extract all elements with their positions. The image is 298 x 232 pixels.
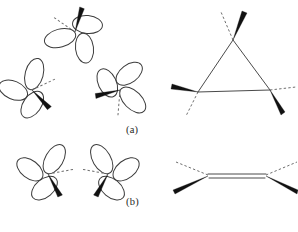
orbital-lobe: [86, 141, 118, 178]
orbital-lobe: [42, 25, 78, 51]
orbital-dash-bond: [53, 13, 75, 37]
orbital-dash-bond: [32, 74, 56, 96]
caption-row-a: (a): [126, 124, 138, 136]
figure-root: (a): [0, 0, 298, 232]
orbital-lower-right: [82, 44, 167, 129]
row-a: [0, 0, 298, 122]
orbital-lobe: [21, 56, 47, 92]
orbital-lobe: [38, 141, 70, 178]
orbital-lobe: [74, 32, 96, 64]
dash-left: [176, 162, 208, 175]
wedge-bottom-right: [270, 90, 285, 115]
dash-top: [221, 12, 233, 40]
caption-row-b: (b): [126, 196, 139, 208]
dash-bottom-left: [186, 92, 198, 116]
orbital-left: [3, 129, 84, 212]
alkene-skeleton: [173, 162, 298, 194]
bottom-caption: [0, 224, 298, 232]
orbital-wedge-bond: [69, 6, 89, 32]
ring-bond-bottom: [198, 90, 270, 92]
dash-bottom-right: [270, 87, 296, 90]
wedge-right: [266, 176, 298, 194]
orbital-lobe: [109, 153, 144, 186]
orbital-right: [72, 129, 153, 212]
orbital-dash-bond: [106, 90, 132, 116]
orbital-lobe: [13, 153, 48, 186]
row-b: [0, 146, 298, 206]
ring-bond-left: [198, 40, 233, 92]
row-b-canvas: [0, 146, 298, 206]
orbital-top: [38, 2, 114, 74]
ring-bond-right: [233, 40, 270, 90]
orbital-lobe: [115, 82, 150, 117]
dash-right: [266, 162, 297, 175]
wedge-bottom-left: [171, 84, 198, 92]
row-a-canvas: [0, 0, 298, 122]
orbital-wedge-bond: [93, 79, 120, 106]
orbital-lobe: [0, 76, 31, 104]
cyclopropane-skeleton: [171, 11, 296, 116]
orbital-lower-left: [0, 50, 62, 126]
wedge-top: [233, 11, 247, 40]
wedge-left: [173, 176, 208, 194]
